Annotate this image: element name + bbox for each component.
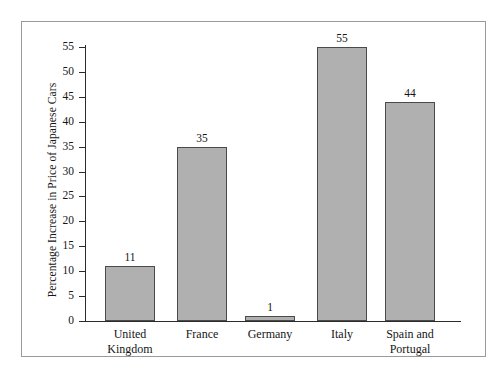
bar-value-label: 35 [177,132,227,144]
y-axis-tick-label: 15 [50,240,74,252]
y-axis-tick-label: 55 [50,41,74,53]
category-label-line-1: Italy [331,327,353,341]
y-axis-tick-label: 25 [50,190,74,202]
y-axis-tick-label: 5 [50,290,74,302]
bar [177,147,227,321]
category-label-line-2: Kingdom [82,342,178,357]
y-axis-tick-label: 0 [50,315,74,327]
category-label-line-1: France [186,327,219,341]
y-axis-tick: 50 [0,72,86,73]
y-axis-tick-mark [79,196,86,197]
x-axis-category-label: Spain andPortugal [362,327,458,357]
bar-value-label: 44 [385,87,435,99]
bar [245,316,295,321]
y-axis-tick: 20 [0,221,86,222]
y-axis-tick: 25 [0,196,86,197]
y-axis-tick-label: 20 [50,215,74,227]
bar [317,47,367,321]
y-axis-tick-mark [79,47,86,48]
y-axis-tick-label: 40 [50,116,74,128]
y-axis-tick-mark [79,172,86,173]
y-axis-tick: 45 [0,97,86,98]
y-axis-tick-mark [79,296,86,297]
bar-chart: Percentage Increase in Price of Japanese… [0,0,499,377]
y-axis-tick: 10 [0,271,86,272]
y-axis-tick-label: 30 [50,166,74,178]
y-axis-tick: 55 [0,47,86,48]
y-axis-tick-label: 35 [50,141,74,153]
bar [105,266,155,321]
y-axis-tick-mark [79,321,86,322]
y-axis-tick: 35 [0,147,86,148]
x-axis-line [85,321,461,322]
y-axis-tick: 0 [0,321,86,322]
category-label-line-1: United [114,327,147,341]
y-axis-tick: 15 [0,246,86,247]
y-axis-tick: 5 [0,296,86,297]
bar-value-label: 1 [245,301,295,313]
y-axis-line [85,45,86,322]
y-axis-tick-mark [79,271,86,272]
y-axis-tick: 40 [0,122,86,123]
y-axis-tick-label: 45 [50,91,74,103]
category-label-line-1: Spain and [386,327,434,341]
y-axis-tick-mark [79,72,86,73]
y-axis-tick-mark [79,122,86,123]
y-axis-tick-mark [79,246,86,247]
category-label-line-1: Germany [248,327,293,341]
y-axis-tick-mark [79,221,86,222]
y-axis-tick-label: 10 [50,265,74,277]
bar-value-label: 11 [105,251,155,263]
y-axis-tick-mark [79,97,86,98]
y-axis-tick-label: 50 [50,66,74,78]
category-label-line-2: Portugal [362,342,458,357]
y-axis-tick-mark [79,147,86,148]
bar [385,102,435,321]
bar-value-label: 55 [317,32,367,44]
y-axis-tick: 30 [0,172,86,173]
